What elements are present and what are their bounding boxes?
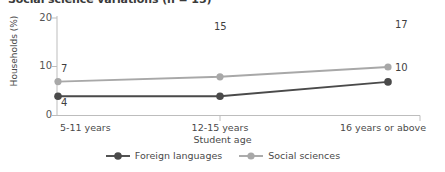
data-point-social-sciences-1 [54,78,61,85]
data-label-social-sciences-3: 17 [395,20,408,30]
x-tick-label-2: 16 years or above [340,122,426,133]
series-line-social-sciences [58,67,388,82]
data-point-social-sciences-3 [384,63,391,70]
legend-item-social-sciences[interactable]: Social sciences [238,150,340,161]
legend-label-foreign-languages: Foreign languages [135,150,222,161]
legend-marker-icon-foreign-languages [105,151,131,161]
data-label-foreign-languages-1: 4 [61,98,67,108]
legend-item-foreign-languages[interactable]: Foreign languages [105,150,222,161]
x-tick-label-1: 12-15 years [192,122,249,133]
line-chart: Social science variations (n = 15) House… [0,0,445,172]
data-point-foreign-languages-3 [384,78,392,86]
data-label-social-sciences-1: 7 [61,64,67,74]
data-point-social-sciences-2 [216,73,223,80]
legend-marker-icon-social-sciences [238,151,264,161]
data-label-foreign-languages-3: 10 [395,63,408,73]
data-label-social-sciences-2: 15 [214,22,227,32]
x-axis-title: Student age [0,134,445,145]
chart-legend: Foreign languages Social sciences [0,150,445,161]
x-tick-label-0: 5-11 years [60,122,111,133]
data-point-foreign-languages-2 [216,92,224,100]
legend-label-social-sciences: Social sciences [268,150,340,161]
